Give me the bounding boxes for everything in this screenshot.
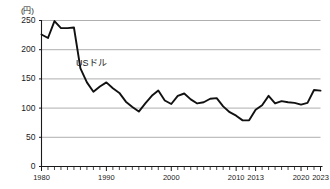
chart-canvas (0, 0, 330, 189)
x-tick-label: 2000 (154, 173, 188, 182)
x-tick-label: 2013 (239, 173, 273, 182)
x-tick-label: 2023 (304, 173, 330, 182)
x-axis-ticks (42, 167, 321, 172)
series-annotation-usdollar: USドル (76, 56, 107, 69)
gridlines (42, 21, 321, 138)
y-tick-label: 0 (10, 161, 36, 171)
x-tick-label: 1980 (25, 173, 59, 182)
y-tick-label: 200 (10, 44, 36, 54)
data-series-group (42, 21, 321, 120)
y-tick-label: 150 (10, 73, 36, 83)
y-tick-label: 100 (10, 103, 36, 113)
y-axis-unit-label: (円) (21, 4, 34, 15)
x-tick-label: 1990 (89, 173, 123, 182)
y-tick-label: 250 (10, 15, 36, 25)
currency-line-chart: (円) USドル 050100150200250 198019902000201… (0, 0, 330, 189)
y-tick-label: 50 (10, 132, 36, 142)
series-line-0 (42, 21, 321, 120)
axis-lines (41, 20, 323, 167)
